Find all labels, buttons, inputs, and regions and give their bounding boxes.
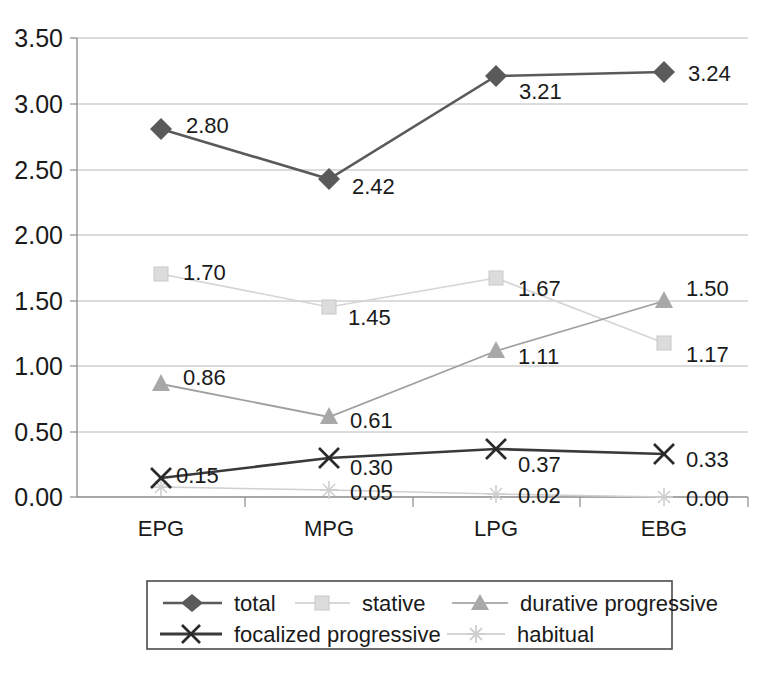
legend-item-habitual[interactable]: habitual <box>447 622 594 647</box>
total-line <box>161 72 664 179</box>
stative-line <box>161 274 664 343</box>
x-label-mpg: MPG <box>304 516 354 541</box>
legend: total stative durative progressive f <box>147 581 718 649</box>
total-value-ebg: 3.24 <box>688 61 731 86</box>
total-value-mpg: 2.42 <box>352 174 395 199</box>
triangle-icon <box>471 594 489 610</box>
x-label-ebg: EBG <box>641 516 687 541</box>
total-marker-epg <box>150 118 172 140</box>
habitual-line <box>161 487 664 497</box>
y-label-1-50: 1.50 <box>14 287 63 315</box>
square-icon <box>315 596 329 610</box>
habitual-marker-epg <box>152 478 170 496</box>
total-marker-ebg <box>653 61 675 83</box>
legend-label-habitual: habitual <box>517 622 594 647</box>
y-label-3-50: 3.50 <box>14 24 63 52</box>
focalized-value-lpg: 0.37 <box>518 452 561 477</box>
durative-value-mpg: 0.61 <box>350 408 393 433</box>
y-label-0-50: 0.50 <box>14 418 63 446</box>
durative-value-epg: 0.86 <box>183 365 226 390</box>
legend-item-stative[interactable]: stative <box>295 591 426 616</box>
habitual-value-lpg: 0.02 <box>518 483 561 508</box>
stative-marker-mpg <box>322 300 336 314</box>
stative-value-ebg: 1.17 <box>686 342 729 367</box>
legend-item-durative-progressive[interactable]: durative progressive <box>452 591 718 616</box>
x-label-epg: EPG <box>138 516 184 541</box>
gridlines <box>77 38 748 432</box>
y-label-0-00: 0.00 <box>14 483 63 511</box>
series-habitual: 0.05 0.02 0.00 <box>152 478 729 511</box>
stative-value-epg: 1.70 <box>183 260 226 285</box>
stative-marker-epg <box>154 267 168 281</box>
stative-marker-ebg <box>657 336 671 350</box>
total-marker-mpg <box>318 168 340 190</box>
total-marker-lpg <box>485 65 507 87</box>
habitual-marker-lpg <box>487 485 505 503</box>
habitual-value-ebg: 0.00 <box>686 486 729 511</box>
focalized-value-epg: 0.15 <box>176 463 219 488</box>
focalized-value-ebg: 0.33 <box>686 447 729 472</box>
star-icon <box>467 625 485 643</box>
legend-label-durative-progressive: durative progressive <box>520 591 718 616</box>
x-axis-labels: EPG MPG LPG EBG <box>138 516 687 541</box>
durative-marker-epg <box>152 374 170 391</box>
total-value-epg: 2.80 <box>186 113 229 138</box>
y-axis-labels: 3.50 3.00 2.50 2.00 1.50 1.00 0.50 0.00 <box>14 24 63 511</box>
y-label-2-00: 2.00 <box>14 221 63 249</box>
y-label-3-00: 3.00 <box>14 90 63 118</box>
total-value-lpg: 3.21 <box>519 79 562 104</box>
line-chart: 3.50 3.00 2.50 2.00 1.50 1.00 0.50 0.00 … <box>0 0 770 684</box>
habitual-marker-mpg <box>320 481 338 499</box>
y-label-2-50: 2.50 <box>14 156 63 184</box>
y-label-1-00: 1.00 <box>14 352 63 380</box>
series-durative-progressive: 0.86 0.61 1.11 1.50 <box>152 276 729 433</box>
chart-canvas: 3.50 3.00 2.50 2.00 1.50 1.00 0.50 0.00 … <box>0 0 770 684</box>
diamond-icon <box>181 594 203 612</box>
stative-marker-lpg <box>489 271 503 285</box>
habitual-value-mpg: 0.05 <box>350 480 393 505</box>
habitual-marker-ebg <box>655 488 673 506</box>
legend-label-focalized-progressive: focalized progressive <box>234 622 441 647</box>
durative-line <box>161 301 664 417</box>
stative-value-mpg: 1.45 <box>348 305 391 330</box>
durative-value-ebg: 1.50 <box>686 276 729 301</box>
legend-item-focalized-progressive[interactable]: focalized progressive <box>160 622 441 647</box>
durative-value-lpg: 1.11 <box>518 344 559 369</box>
durative-marker-ebg <box>655 291 673 308</box>
y-tickmarks <box>70 38 77 497</box>
legend-item-total[interactable]: total <box>163 591 276 616</box>
legend-label-total: total <box>234 591 276 616</box>
series-focalized-progressive: 0.15 0.30 0.37 0.33 <box>151 439 729 488</box>
focalized-line <box>161 449 664 478</box>
series-stative: 1.70 1.45 1.67 1.17 <box>154 260 729 367</box>
focalized-value-mpg: 0.30 <box>350 455 393 480</box>
series-total: 2.80 2.42 3.21 3.24 <box>150 61 731 199</box>
x-label-lpg: LPG <box>474 516 518 541</box>
stative-value-lpg: 1.67 <box>518 276 561 301</box>
legend-label-stative: stative <box>362 591 426 616</box>
